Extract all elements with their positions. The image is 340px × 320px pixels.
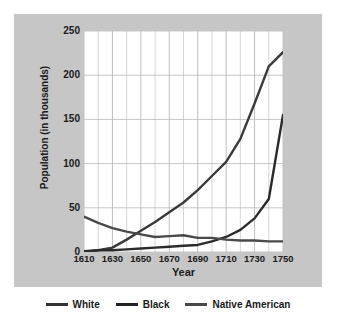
- legend-line-swatch: [185, 303, 207, 306]
- x-axis-title: Year: [84, 266, 283, 278]
- legend-item-label: White: [73, 299, 100, 310]
- y-axis-tick-label: 150: [63, 114, 80, 124]
- chart-legend: WhiteBlackNative American: [14, 296, 322, 312]
- y-axis-tick-label: 250: [63, 26, 80, 36]
- series-line-white: [84, 52, 283, 252]
- y-axis-tick-label: 200: [63, 70, 80, 80]
- legend-item-label: Native American: [212, 299, 290, 310]
- series-lines: [84, 31, 283, 252]
- legend-line-swatch: [116, 303, 138, 306]
- x-axis-tick-label: 1610: [73, 253, 94, 264]
- legend-item-black[interactable]: Black: [116, 299, 170, 310]
- legend-item-native-american[interactable]: Native American: [185, 299, 290, 310]
- x-axis-tick-label: 1710: [216, 253, 237, 264]
- x-axis-tick-label: 1730: [244, 253, 265, 264]
- y-axis-tick-labels: 050100150200250: [28, 31, 80, 252]
- x-axis-tick-labels: 16101630165016701690171017301750: [84, 253, 283, 267]
- legend-item-white[interactable]: White: [46, 299, 100, 310]
- chart-panel: Population (in thousands) 05010015020025…: [14, 14, 322, 287]
- legend-item-label: Black: [143, 299, 170, 310]
- x-axis-tick-label: 1690: [187, 253, 208, 264]
- y-axis-tick-label: 50: [69, 203, 80, 213]
- x-axis-tick-label: 1630: [102, 253, 123, 264]
- x-axis-tick-label: 1650: [130, 253, 151, 264]
- plot-area: [84, 31, 283, 252]
- series-line-black: [84, 115, 283, 251]
- y-axis-tick-label: 100: [63, 159, 80, 169]
- x-axis-tick-label: 1750: [272, 253, 293, 264]
- legend-line-swatch: [46, 303, 68, 306]
- x-axis-tick-label: 1670: [159, 253, 180, 264]
